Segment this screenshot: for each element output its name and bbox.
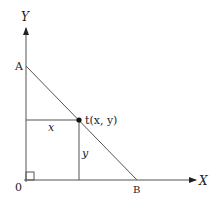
y-axis-label: Y: [21, 10, 30, 24]
point-t: [76, 117, 81, 122]
segment-x-label: x: [48, 121, 55, 134]
diagram-svg: Y X 0 A B t(x, y) x y: [0, 0, 220, 205]
right-angle-marker: [26, 172, 34, 180]
origin-label: 0: [15, 181, 22, 194]
point-t-label: t(x, y): [85, 114, 117, 127]
diagram-canvas: Y X 0 A B t(x, y) x y: [0, 0, 220, 205]
line-ab: [26, 66, 137, 180]
point-a-label: A: [14, 60, 24, 73]
segment-y-label: y: [81, 147, 89, 160]
point-b-label: B: [133, 184, 140, 195]
x-axis-label: X: [198, 174, 208, 188]
